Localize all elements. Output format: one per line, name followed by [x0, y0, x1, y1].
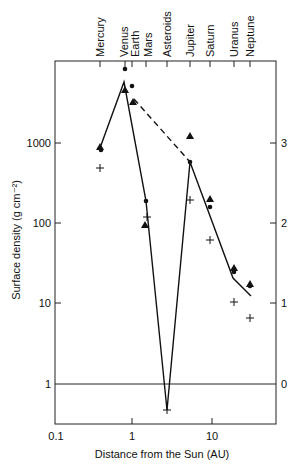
right-ticks [270, 143, 276, 303]
planet-label-asteroids: Asteroids [161, 11, 173, 57]
planet-labels: Mercury Venus Earth Mars Asteroids Jupit… [94, 11, 256, 57]
planet-label-earth: Earth [129, 31, 141, 57]
y-axis-title: Surface density (g cm⁻²) [10, 180, 22, 300]
dashed-curve [134, 99, 190, 162]
y-tick-1: 1 [45, 378, 51, 390]
dot-markers [99, 67, 253, 289]
right-tick-labels: 3 2 1 0 [281, 137, 287, 390]
y-tick-10: 10 [39, 297, 51, 309]
top-ticks [100, 61, 250, 67]
bottom-ticks [132, 418, 212, 424]
right-tick-2: 2 [281, 217, 287, 229]
solid-curve [100, 82, 251, 410]
right-tick-1: 1 [281, 297, 287, 309]
x-tick-1: 1 [129, 430, 135, 442]
planet-label-uranus: Uranus [228, 21, 240, 57]
x-tick-10: 10 [206, 430, 218, 442]
planet-label-jupiter: Jupiter [184, 24, 196, 57]
x-tick-0-1: 0.1 [48, 430, 63, 442]
triangle-markers [96, 86, 254, 287]
cross-markers [96, 164, 254, 414]
right-tick-0: 0 [281, 378, 287, 390]
surface-density-chart: Mercury Venus Earth Mars Asteroids Jupit… [0, 0, 299, 465]
y-tick-100: 100 [33, 217, 51, 229]
y-tick-1000: 1000 [27, 137, 51, 149]
right-tick-3: 3 [281, 137, 287, 149]
left-ticks [55, 143, 61, 303]
planet-label-neptune: Neptune [244, 15, 256, 57]
planet-label-mars: Mars [142, 32, 154, 57]
x-axis-title: Distance from the Sun (AU) [95, 448, 230, 460]
left-tick-labels: 1000 100 10 1 [27, 137, 51, 390]
planet-label-mercury: Mercury [94, 17, 106, 57]
x-tick-labels: 0.1 1 10 [48, 430, 218, 442]
planet-label-saturn: Saturn [204, 25, 216, 57]
plot-frame [55, 61, 276, 424]
